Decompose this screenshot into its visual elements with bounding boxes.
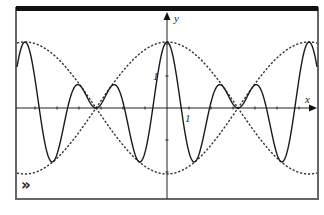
y-axis-label: y <box>173 12 179 24</box>
expand-chevrons-icon[interactable]: » <box>21 178 31 193</box>
y-axis-arrow-icon <box>164 12 171 20</box>
x-axis-arrow-icon <box>309 105 317 112</box>
x-tick-label-1: 1 <box>185 112 191 124</box>
x-axis-label: x <box>304 93 310 105</box>
graph-canvas: y x 1 1 <box>0 0 324 215</box>
graph-top-bar <box>16 6 318 11</box>
